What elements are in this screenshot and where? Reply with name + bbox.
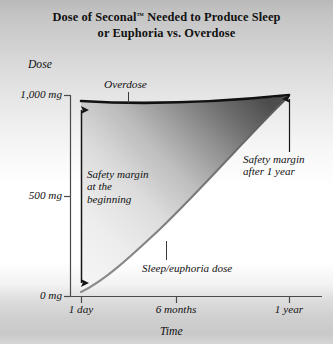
overdose-series-label: Overdose [104, 78, 147, 91]
safety-margin-beginning-line-2: at the [87, 180, 112, 192]
safety-margin-beginning-line-1: Safety margin [87, 168, 149, 180]
chart-figure: Dose of Seconal™ Needed to Produce Sleep… [0, 0, 333, 344]
x-tick-label-6-months: 6 months [136, 303, 216, 316]
chart-title: Dose of Seconal™ Needed to Produce Sleep… [0, 10, 333, 42]
x-tick-label-1-day: 1 day [41, 303, 121, 316]
trademark-symbol: ™ [137, 11, 145, 20]
chart-title-segment-1: Dose of Seconal [53, 10, 137, 24]
y-tick-label-0mg: 0 mg [4, 289, 62, 302]
y-tick-label-1000mg: 1,000 mg [4, 88, 62, 101]
x-axis-label: Time [160, 325, 183, 338]
safety-margin-after-1-year-line-1: Safety margin [243, 153, 305, 165]
safety-margin-after-1-year-line-2: after 1 year [243, 165, 295, 177]
y-tick-label-500mg: 500 mg [4, 189, 62, 202]
safety-margin-beginning-line-3: beginning [87, 193, 131, 205]
safety-margin-beginning-label: Safety marginat thebeginning [87, 168, 149, 205]
y-axis-label: Dose [28, 58, 52, 71]
x-tick-label-1-year: 1 year [249, 303, 329, 316]
chart-title-segment-2: Needed to Produce Sleep [144, 10, 280, 24]
sleep-euphoria-series-label: Sleep/euphoria dose [142, 262, 232, 274]
chart-title-line-2: or Euphoria vs. Overdose [98, 26, 236, 40]
safety-margin-after-1-year-label: Safety marginafter 1 year [243, 153, 305, 178]
